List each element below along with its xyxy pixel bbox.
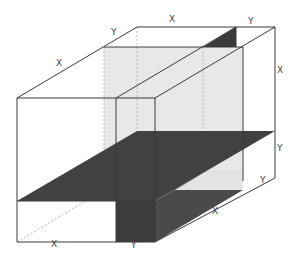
label-front-bottom-x: X — [51, 239, 57, 249]
label-bottom-right-x: X — [212, 206, 218, 216]
label-front-bottom-y: Y — [130, 240, 137, 250]
label-top-left-y: Y — [110, 27, 117, 37]
label-back-top-x: X — [169, 14, 175, 24]
dark-front-slab — [116, 201, 155, 242]
label-right-y: Y — [276, 143, 283, 153]
label-back-top-y: Y — [247, 16, 254, 26]
label-bottom-right-y: Y — [259, 175, 266, 185]
label-right-x: X — [277, 65, 283, 75]
label-top-left-x: X — [56, 58, 62, 68]
box-diagram: X Y X Y X Y Y X X Y — [0, 0, 298, 261]
